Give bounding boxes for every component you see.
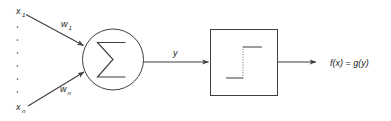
weight-label-first-sub: 1 bbox=[69, 24, 72, 31]
input-label-last-base: x bbox=[15, 102, 21, 112]
neuron-diagram: x 1 x n w 1 w n y f(x) = g(y) bbox=[0, 0, 391, 121]
weight-label-first-base: w bbox=[61, 19, 68, 29]
weight-label-last-base: w bbox=[60, 84, 67, 94]
input-arrow-last bbox=[28, 72, 84, 106]
input-label-first-base: x bbox=[15, 6, 21, 16]
activation-box bbox=[211, 30, 278, 96]
input-label-last-sub: n bbox=[22, 107, 26, 114]
weight-label-last-sub: n bbox=[68, 89, 72, 96]
input-label-first-sub: 1 bbox=[22, 11, 25, 18]
signal-label-y: y bbox=[172, 48, 178, 58]
output-label: f(x) = g(y) bbox=[330, 58, 369, 68]
input-ellipsis-dots bbox=[17, 26, 19, 93]
diagram-canvas: x 1 x n w 1 w n y f(x) = g(y) bbox=[0, 0, 391, 121]
input-arrow-first bbox=[26, 15, 84, 46]
